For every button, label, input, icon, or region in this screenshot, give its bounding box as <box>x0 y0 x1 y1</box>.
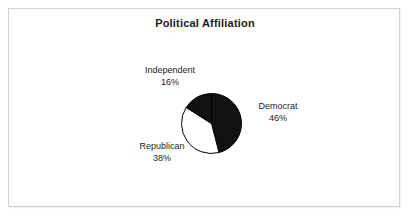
pie-label-independent: Independent 16% <box>125 64 215 88</box>
pie-label-independent-percent: 16% <box>125 76 215 88</box>
pie-label-democrat: Democrat 46% <box>235 100 321 124</box>
chart-frame: Political Affiliation Independent 16% De… <box>8 8 400 207</box>
pie-label-democrat-name: Democrat <box>235 100 321 112</box>
pie-label-democrat-percent: 46% <box>235 112 321 124</box>
pie-label-republican-percent: 38% <box>117 152 207 164</box>
pie-chart <box>9 9 401 208</box>
pie-chart-svg <box>9 9 401 208</box>
pie-label-republican: Republican 38% <box>117 140 207 164</box>
pie-label-republican-name: Republican <box>117 140 207 152</box>
pie-label-independent-name: Independent <box>125 64 215 76</box>
